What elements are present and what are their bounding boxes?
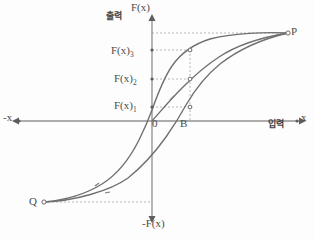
tick-x-positive — [296, 120, 299, 123]
fx3-base: F(x) — [111, 44, 130, 56]
marker-b-fx3 — [188, 48, 192, 52]
fx2-subscript: 2 — [133, 78, 137, 87]
curve-upper-branch — [44, 33, 288, 202]
y-axis-arrow-up — [149, 14, 156, 21]
input-axis-korean-label: 입력 — [268, 120, 284, 129]
axis-arrows — [12, 14, 306, 223]
x-axis-positive-label: x — [301, 112, 307, 123]
point-q-label: Q — [29, 196, 37, 207]
y-axis-bottom-label: -F(x) — [142, 218, 165, 229]
point-p-label: P — [291, 26, 297, 37]
fx1-subscript: 1 — [133, 105, 137, 114]
marker-point-p — [286, 31, 290, 35]
tick-fx1 — [150, 105, 153, 108]
marker-point-q — [42, 200, 46, 204]
x-axis-negative-label: -x — [3, 112, 12, 123]
point-b-label: B — [180, 118, 187, 129]
tick-fx3 — [150, 48, 153, 51]
hysteresis-curves — [44, 33, 288, 202]
axes — [18, 20, 299, 218]
fx1-label: F(x)1 — [114, 100, 137, 114]
fx2-label: F(x)2 — [114, 73, 137, 87]
curve-lower-branch — [44, 33, 288, 202]
origin-label: 0 — [152, 118, 158, 129]
marker-b-fx2 — [188, 77, 192, 81]
tick-fx2 — [150, 77, 153, 80]
fx3-label: F(x)3 — [111, 45, 134, 59]
curve-middle-branch — [152, 33, 288, 121]
hysteresis-figure: F(x) 출력 F(x)3 F(x)2 F(x)1 0 B -x x 입력 P … — [0, 0, 315, 240]
fx1-base: F(x) — [114, 99, 133, 111]
marker-b-fx1 — [188, 105, 192, 109]
fx3-subscript: 3 — [130, 50, 134, 59]
output-axis-korean-label: 출력 — [106, 12, 122, 21]
sample-tick-lower-1 — [105, 192, 110, 193]
point-markers — [42, 31, 290, 204]
guide-lines — [44, 33, 288, 202]
fx2-base: F(x) — [114, 72, 133, 84]
y-axis-top-label: F(x) — [131, 2, 150, 13]
tick-x-negative — [18, 120, 21, 123]
